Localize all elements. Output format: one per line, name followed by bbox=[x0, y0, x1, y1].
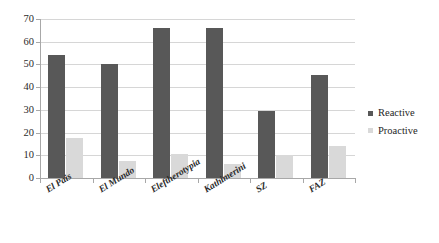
x-axis-label-4: SZ bbox=[254, 180, 269, 194]
legend-swatch-icon bbox=[368, 128, 373, 133]
gridline bbox=[40, 42, 355, 43]
bar-reactive-0 bbox=[48, 55, 65, 178]
bar-reactive-1 bbox=[101, 64, 118, 178]
bar-reactive-2 bbox=[153, 28, 170, 178]
y-axis-tick-mark bbox=[36, 87, 41, 88]
y-axis-tick-label: 70 bbox=[8, 14, 34, 25]
x-axis-tick-mark bbox=[145, 178, 146, 183]
y-axis-tick-label: 40 bbox=[8, 82, 34, 93]
legend-swatch-icon bbox=[368, 111, 373, 116]
y-axis-tick-mark bbox=[36, 110, 41, 111]
legend-label: Proactive bbox=[378, 126, 418, 137]
y-axis-tick-label: 30 bbox=[8, 105, 34, 116]
x-axis-label-5: FAZ bbox=[307, 177, 327, 195]
bar-reactive-3 bbox=[206, 28, 223, 178]
plot-area bbox=[40, 19, 355, 178]
x-axis-tick-mark bbox=[93, 178, 94, 183]
y-axis-tick-label: 0 bbox=[8, 173, 34, 184]
gridline bbox=[40, 87, 355, 88]
x-axis-tick-mark bbox=[250, 178, 251, 183]
y-axis-tick-mark bbox=[36, 64, 41, 65]
y-axis-tick-label: 50 bbox=[8, 59, 34, 70]
y-axis-labels: 706050403020100 bbox=[4, 19, 34, 179]
y-axis-tick-mark bbox=[36, 155, 41, 156]
gridline bbox=[40, 19, 355, 20]
x-axis-tick-mark bbox=[198, 178, 199, 183]
y-axis-tick-mark bbox=[36, 42, 41, 43]
bar-proactive-4 bbox=[276, 155, 293, 178]
gridline bbox=[40, 133, 355, 134]
y-axis-tick-mark bbox=[36, 178, 41, 179]
chart-legend: ReactiveProactive bbox=[368, 108, 418, 143]
x-axis-tick-mark bbox=[303, 178, 304, 183]
bar-reactive-5 bbox=[311, 75, 328, 178]
y-axis-tick-label: 60 bbox=[8, 37, 34, 48]
gridline bbox=[40, 155, 355, 156]
y-axis-tick-mark bbox=[36, 133, 41, 134]
y-axis-tick-mark bbox=[36, 19, 41, 20]
y-axis-tick-label: 10 bbox=[8, 150, 34, 161]
gridline bbox=[40, 110, 355, 111]
gridline bbox=[40, 64, 355, 65]
y-axis-tick-label: 20 bbox=[8, 128, 34, 139]
bar-reactive-4 bbox=[258, 111, 275, 178]
bar-chart: 706050403020100 El PaisEl MundoElefthero… bbox=[0, 0, 439, 243]
legend-label: Reactive bbox=[378, 108, 415, 119]
legend-item-reactive[interactable]: Reactive bbox=[368, 108, 418, 119]
legend-item-proactive[interactable]: Proactive bbox=[368, 126, 418, 137]
bar-proactive-5 bbox=[329, 146, 346, 178]
x-axis-tick-mark bbox=[355, 178, 356, 183]
